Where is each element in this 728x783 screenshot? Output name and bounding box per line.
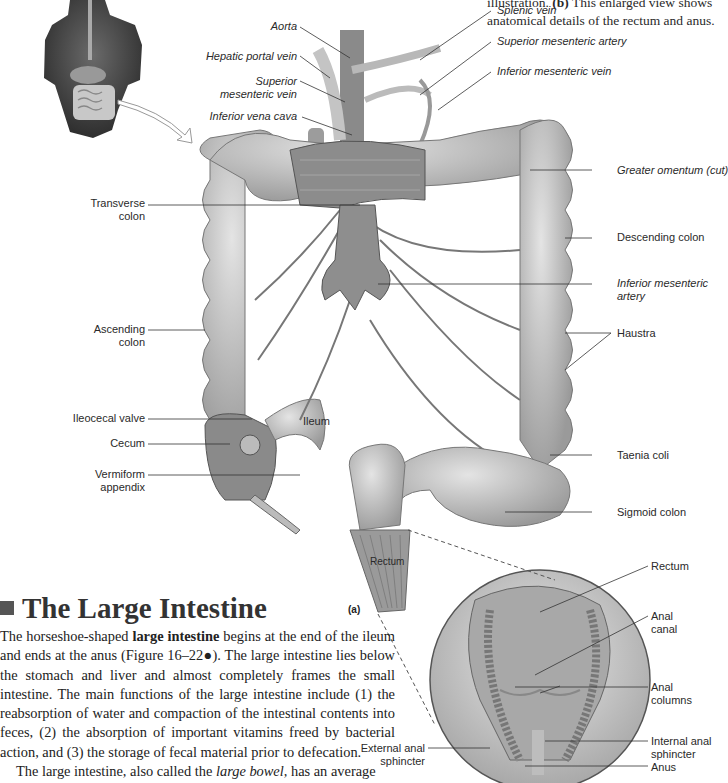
label-transverse-colon-2: colon [40,210,145,223]
label-vermiform-appendix-1: Vermiform [40,468,145,481]
label-anal-canal-1: Anal [651,610,673,623]
label-ileocecal-valve: Ileocecal valve [20,412,145,425]
section-body: The horseshoe-shaped large intestine beg… [0,627,395,781]
label-superior-mesenteric-vein-1: Superior [200,75,297,88]
label-aorta: Aorta [200,20,297,33]
label-sigmoid-colon: Sigmoid colon [617,506,686,519]
paragraph-2: The large intestine, also called the lar… [0,762,395,781]
label-greater-omentum: Greater omentum (cut) [617,164,728,177]
label-haustra: Haustra [617,327,656,340]
label-transverse-colon-1: Transverse [40,197,145,210]
label-inferior-mesenteric-artery-2: artery [617,290,645,303]
label-vermiform-appendix-2: appendix [40,481,145,494]
label-anus: Anus [651,761,676,774]
label-inferior-mesenteric-artery-1: Inferior mesenteric [617,277,708,290]
label-superior-mesenteric-vein-2: mesenteric vein [180,88,297,101]
torso-thumbnail-icon [44,0,142,138]
label-cecum: Cecum [40,437,145,450]
label-superior-mesenteric-artery: Superior mesenteric artery [497,35,627,48]
label-ascending-colon-2: colon [40,336,145,349]
section-heading: The Large Intestine [0,592,267,625]
label-inferior-vena-cava: Inferior vena cava [170,110,297,123]
panel-a-tag: (a) [348,604,360,615]
label-splenic-vein: Splenic vein [497,4,556,17]
heading-bullet-icon [0,601,14,615]
label-rectum: Rectum [651,560,689,573]
label-hepatic-portal-vein: Hepatic portal vein [160,50,297,63]
label-anal-canal-2: canal [651,623,677,636]
label-rectum-a: Rectum [370,555,404,568]
label-internal-anal-sphincter-1: Internal anal [651,735,712,748]
label-anal-columns-2: columns [651,694,692,707]
label-ascending-colon-1: Ascending [40,323,145,336]
paragraph-1: The horseshoe-shaped large intestine beg… [0,627,395,762]
label-internal-anal-sphincter-2: sphincter [651,748,696,761]
label-ileum: Ileum [303,415,330,428]
label-descending-colon: Descending colon [617,231,704,244]
label-inferior-mesenteric-vein: Inferior mesenteric vein [497,65,611,78]
label-taenia-coli: Taenia coli [617,449,669,462]
label-anal-columns-1: Anal [651,681,673,694]
